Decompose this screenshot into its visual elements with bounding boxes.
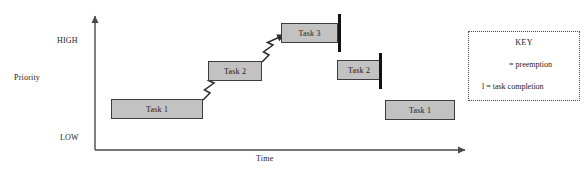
task-block[interactable]: Task 3 xyxy=(281,23,338,43)
task-block[interactable]: Task 1 xyxy=(111,99,203,119)
task-block[interactable]: Task 2 xyxy=(208,61,262,81)
task-block[interactable]: Task 2 xyxy=(337,60,381,80)
y-axis-low-label: LOW xyxy=(60,133,79,142)
y-axis-high-label: HIGH xyxy=(57,36,78,45)
y-axis-title: Priority xyxy=(14,73,40,82)
task-completion-bar xyxy=(379,53,382,89)
x-axis-title: Time xyxy=(256,154,273,163)
diagram-canvas: HIGH LOW Priority Time Task 1 Task 2 Tas… xyxy=(0,0,588,171)
key-completion-label: l = task completion xyxy=(482,82,544,91)
key-title: KEY xyxy=(469,38,579,47)
task-block[interactable]: Task 1 xyxy=(385,100,455,120)
task-completion-bar xyxy=(338,14,341,52)
key-preemption-label: = preemption xyxy=(509,60,552,69)
key-legend: KEY = preemption l = task completion xyxy=(468,31,580,101)
